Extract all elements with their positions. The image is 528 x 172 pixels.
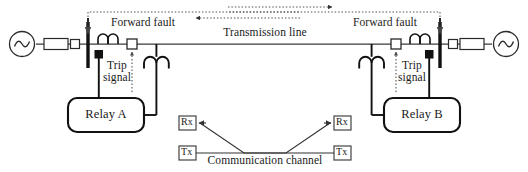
tx-left-label: Tx xyxy=(181,147,192,157)
circuit-breaker-line-right-icon xyxy=(391,39,401,49)
transformer-block-right-icon xyxy=(460,39,484,50)
transformer-block-icon xyxy=(44,39,68,50)
trip-signal-right-line2: signal xyxy=(398,72,426,84)
circuit-breaker-line-left-icon xyxy=(127,39,137,49)
comm-link-left-tx-to-right-rx xyxy=(196,123,331,153)
circuit-breaker-source-right-icon xyxy=(449,40,458,49)
ac-source-right-icon xyxy=(494,32,519,57)
ct-tap-right-icon xyxy=(426,51,434,59)
voltage-transformer-right-icon xyxy=(359,44,384,115)
tx-right-label: Tx xyxy=(336,147,347,157)
protection-scheme-diagram: Transmission line Forward fault Forward … xyxy=(0,0,528,172)
transmission-line-label: Transmission line xyxy=(223,27,306,39)
voltage-transformer-left-icon xyxy=(144,44,169,115)
forward-fault-right-label: Forward fault xyxy=(353,17,417,29)
relay-a-label: Relay A xyxy=(85,108,126,121)
trip-signal-right-label: Trip signal xyxy=(398,60,426,84)
communication-channel-label: Communication channel xyxy=(208,155,323,167)
forward-fault-left-label: Forward fault xyxy=(111,17,175,29)
relay-b-label: Relay B xyxy=(401,108,442,121)
comm-link-right-tx-to-left-rx xyxy=(199,123,334,153)
ac-source-icon xyxy=(10,32,35,57)
circuit-breaker-source-left-icon xyxy=(71,40,80,49)
ct-tap-left-icon xyxy=(95,51,103,59)
trip-signal-left-line2: signal xyxy=(103,72,131,84)
rx-right-label: Rx xyxy=(336,117,348,127)
trip-signal-left-label: Trip signal xyxy=(103,60,131,84)
rx-left-label: Rx xyxy=(181,117,193,127)
